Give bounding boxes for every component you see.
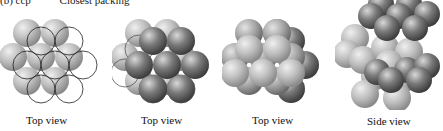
figure-header: (b) ccp Closest packing [0,0,130,6]
caption-4: Side view [367,115,411,127]
panel-top-view-2 [112,10,212,105]
figure-title: Closest packing [60,0,130,6]
figure-label: (b) ccp [0,0,31,6]
layer-a-spheres [0,19,83,95]
panel-top-view-3 [222,10,322,105]
panel-top-view-1 [0,10,100,105]
panel-side-view [335,0,443,110]
sphere-packing-diagram [112,10,212,105]
caption-1: Top view [26,114,67,126]
caption-3: Top view [252,114,293,126]
top-dark-layer [358,0,440,41]
caption-2: Top view [141,114,182,126]
sphere-stacking-diagram [335,0,443,110]
sphere-packing-diagram [222,10,322,105]
sphere-packing-diagram [0,10,100,105]
